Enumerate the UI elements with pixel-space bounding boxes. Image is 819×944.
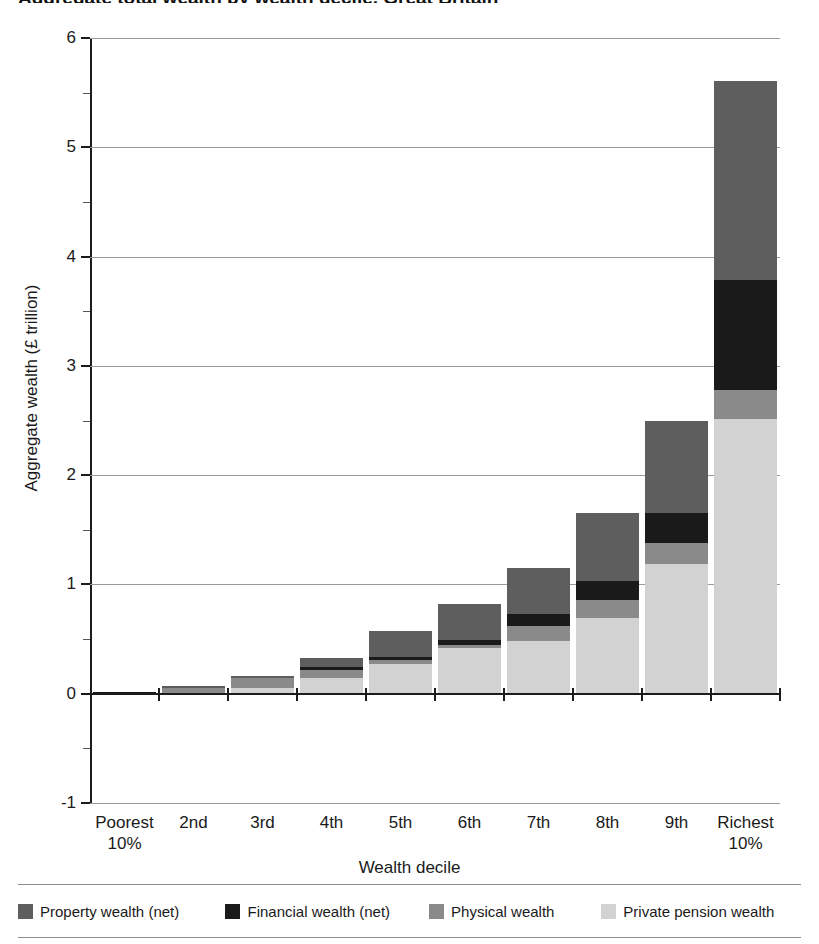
y-axis-tick xyxy=(81,37,90,39)
x-axis-label-6: 6th xyxy=(435,812,504,833)
y-axis-tick xyxy=(81,802,90,804)
y-axis-minor-tick xyxy=(83,421,90,422)
legend-label: Financial wealth (net) xyxy=(247,903,390,920)
bar-segment xyxy=(507,626,569,641)
bar-segment xyxy=(300,678,362,693)
plot-area: 6543210-1 xyxy=(90,38,780,803)
bar-segment xyxy=(645,513,707,543)
y-axis-tick xyxy=(81,146,90,148)
legend-swatch-icon xyxy=(18,904,33,919)
y-axis-tick-label: 3 xyxy=(67,356,76,376)
bar-segment xyxy=(369,657,431,660)
y-axis-tick xyxy=(81,256,90,258)
bar-segment xyxy=(438,645,500,648)
x-axis-label-10: Richest10% xyxy=(711,812,780,854)
bar-10[interactable] xyxy=(714,38,776,803)
y-axis-tick-label: 5 xyxy=(67,137,76,157)
bar-9[interactable] xyxy=(645,38,707,803)
legend-item-3[interactable]: Physical wealth xyxy=(429,903,554,920)
bar-segment xyxy=(300,667,362,669)
bar-segment xyxy=(576,513,638,581)
y-axis-tick-label: 6 xyxy=(67,28,76,48)
y-axis-minor-tick xyxy=(83,748,90,749)
bar-segment xyxy=(645,543,707,564)
y-axis-minor-tick xyxy=(83,639,90,640)
y-axis-tick xyxy=(81,583,90,585)
bar-segment xyxy=(231,678,293,688)
chart-title: Aggregate total wealth by wealth decile,… xyxy=(0,0,819,3)
y-axis-tick-label: 1 xyxy=(67,574,76,594)
bar-segment xyxy=(576,618,638,693)
legend-swatch-icon xyxy=(429,904,444,919)
y-axis-minor-tick xyxy=(83,530,90,531)
bar-segment xyxy=(231,676,293,678)
y-axis-tick-label: 0 xyxy=(67,684,76,704)
x-axis-label-2: 2nd xyxy=(159,812,228,833)
y-axis-minor-tick xyxy=(83,93,90,94)
bar-segment xyxy=(507,568,569,614)
legend-item-1[interactable]: Property wealth (net) xyxy=(18,903,179,920)
bar-segment xyxy=(438,640,500,644)
bar-8[interactable] xyxy=(576,38,638,803)
x-axis-label-9: 9th xyxy=(642,812,711,833)
y-axis-minor-tick xyxy=(83,202,90,203)
bar-2[interactable] xyxy=(162,38,224,803)
bar-segment xyxy=(507,614,569,626)
bar-segment xyxy=(714,81,776,280)
bar-segment xyxy=(300,670,362,679)
x-axis-label-5: 5th xyxy=(366,812,435,833)
x-axis-label-3: 3rd xyxy=(228,812,297,833)
y-axis-tick xyxy=(81,365,90,367)
y-axis-tick-label: -1 xyxy=(61,793,76,813)
bar-4[interactable] xyxy=(300,38,362,803)
bar-segment xyxy=(645,564,707,694)
bar-segment xyxy=(369,664,431,694)
bar-1[interactable] xyxy=(93,38,155,803)
bar-segment xyxy=(438,604,500,640)
x-axis-label-4: 4th xyxy=(297,812,366,833)
bar-segment xyxy=(576,581,638,600)
y-axis-tick xyxy=(81,474,90,476)
chart-legend: Property wealth (net)Financial wealth (n… xyxy=(18,884,801,938)
legend-swatch-icon xyxy=(601,904,616,919)
legend-swatch-icon xyxy=(225,904,240,919)
legend-item-2[interactable]: Financial wealth (net) xyxy=(225,903,390,920)
legend-label: Private pension wealth xyxy=(623,903,774,920)
zero-baseline xyxy=(90,693,780,695)
bar-segment xyxy=(645,421,707,514)
y-axis-tick xyxy=(81,693,90,695)
bar-segment xyxy=(162,686,224,688)
bar-segment xyxy=(576,600,638,619)
legend-item-4[interactable]: Private pension wealth xyxy=(601,903,774,920)
legend-label: Property wealth (net) xyxy=(40,903,179,920)
bar-segment xyxy=(369,660,431,664)
x-axis-title: Wealth decile xyxy=(0,858,819,878)
y-axis-tick-label: 2 xyxy=(67,465,76,485)
bar-segment xyxy=(714,390,776,420)
bar-segment xyxy=(507,641,569,693)
x-axis-tick-labels: Poorest10%2nd3rd4th5th6th7th8th9thRiches… xyxy=(90,812,780,858)
bar-segment xyxy=(300,658,362,668)
bar-segment xyxy=(369,631,431,656)
legend-label: Physical wealth xyxy=(451,903,554,920)
bar-7[interactable] xyxy=(507,38,569,803)
bar-3[interactable] xyxy=(231,38,293,803)
bar-segment xyxy=(714,419,776,693)
gridline xyxy=(90,803,780,804)
bar-segment xyxy=(714,280,776,390)
x-axis-label-8: 8th xyxy=(573,812,642,833)
bar-6[interactable] xyxy=(438,38,500,803)
bar-5[interactable] xyxy=(369,38,431,803)
y-axis-minor-tick xyxy=(83,311,90,312)
x-axis-label-1: Poorest10% xyxy=(90,812,159,854)
y-axis-title: Aggregate wealth (£ trillion) xyxy=(22,128,42,648)
bar-segment xyxy=(438,648,500,694)
x-axis-label-7: 7th xyxy=(504,812,573,833)
y-axis-tick-label: 4 xyxy=(67,247,76,267)
